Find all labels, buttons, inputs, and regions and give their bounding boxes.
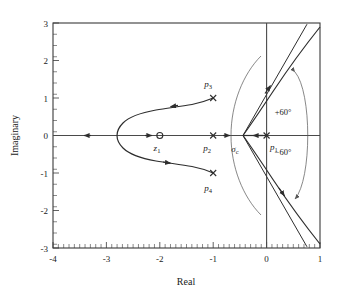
label-z1: z1	[153, 143, 161, 154]
label-angle-minus-60: −60°	[275, 147, 292, 157]
locus-arrow-asym-lower	[279, 188, 285, 196]
label-sigma-c: σc	[231, 144, 238, 155]
root-locus-figure: -4 -3 -2 -1 0 1 3 2 1 0 -1 -2 -3 Real Im…	[0, 0, 338, 295]
x-axis-minor-ticks	[58, 244, 314, 248]
locus-branch-lower	[117, 136, 213, 174]
locus-arrow-lower	[163, 162, 171, 163]
y-tick-label-1: 2	[44, 56, 49, 66]
x-tick-label-0: -4	[49, 254, 57, 264]
y-tick-label-5: -2	[41, 206, 49, 216]
x-tick-label-1: -3	[103, 254, 111, 264]
locus-branch-upper	[117, 98, 213, 136]
label-p3: p3	[203, 79, 212, 90]
root-locus-plot: -4 -3 -2 -1 0 1 3 2 1 0 -1 -2 -3 Real Im…	[0, 0, 338, 295]
y-tick-label-6: -3	[41, 244, 49, 254]
y-tick-label-2: 1	[44, 94, 49, 104]
x-tick-label-5: 1	[318, 254, 323, 264]
y-tick-label-3: 0	[44, 131, 49, 141]
pole-marker-p4	[210, 170, 216, 176]
label-p2: p2	[202, 143, 211, 154]
y-tick-label-0: 3	[44, 19, 49, 29]
x-tick-label-4: 0	[264, 254, 269, 264]
x-tick-label-3: -1	[209, 254, 217, 264]
x-axis-title: Real	[177, 276, 196, 287]
label-p4: p4	[203, 183, 213, 194]
locus-branch-asym-upper	[243, 27, 320, 136]
x-tick-label-2: -2	[156, 254, 164, 264]
label-angle-plus-60: +60°	[275, 107, 292, 117]
pole-marker-p3	[210, 95, 216, 101]
y-tick-label-4: -1	[41, 169, 49, 179]
asymptote-plus-60	[243, 24, 307, 135]
y-axis-title: Imaginary	[9, 115, 20, 156]
